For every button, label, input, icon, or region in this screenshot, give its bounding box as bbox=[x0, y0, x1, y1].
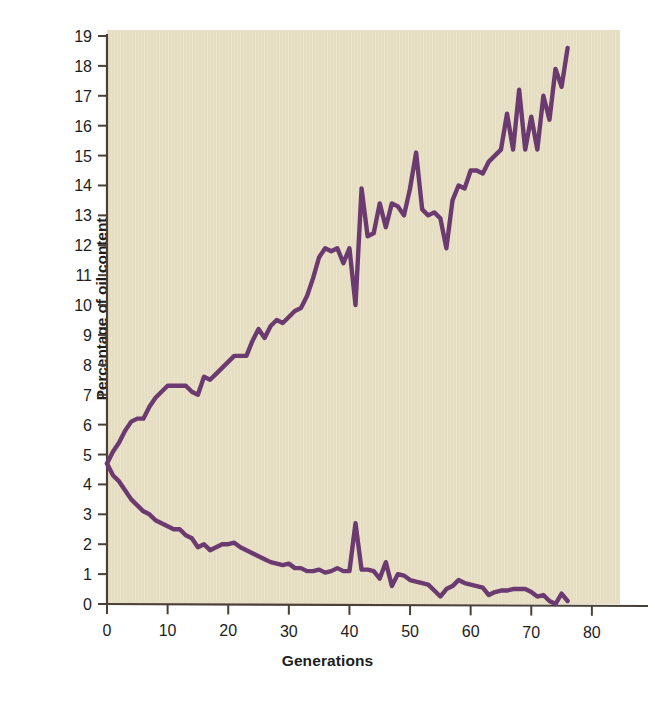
y-axis-ticks: 012345678910111213141516171819 bbox=[74, 28, 107, 613]
x-tick-label: 0 bbox=[103, 622, 112, 639]
y-tick-label: 15 bbox=[74, 148, 92, 165]
y-tick-label: 12 bbox=[74, 237, 92, 254]
y-tick-label: 3 bbox=[83, 506, 92, 523]
y-tick-label: 10 bbox=[74, 297, 92, 314]
y-tick-label: 19 bbox=[74, 28, 92, 45]
y-tick-label: 17 bbox=[74, 88, 92, 105]
x-axis-title: Generations bbox=[0, 652, 655, 670]
y-tick-label: 4 bbox=[83, 476, 92, 493]
y-tick-label: 8 bbox=[83, 357, 92, 374]
y-tick-label: 2 bbox=[83, 536, 92, 553]
x-axis-ticks: 01020304050607080 bbox=[103, 604, 601, 641]
x-tick-label: 50 bbox=[401, 623, 419, 640]
y-tick-label: 11 bbox=[75, 267, 92, 284]
y-tick-label: 7 bbox=[83, 387, 92, 404]
x-tick-label: 60 bbox=[462, 623, 480, 640]
y-tick-label: 16 bbox=[74, 118, 92, 135]
chart-figure: Percentage of oil content 01234567891011… bbox=[0, 0, 655, 706]
x-tick-label: 70 bbox=[522, 624, 540, 641]
x-tick-label: 20 bbox=[219, 622, 237, 639]
y-tick-label: 14 bbox=[74, 177, 92, 194]
y-tick-label: 9 bbox=[83, 327, 92, 344]
y-tick-label: 18 bbox=[74, 58, 92, 75]
x-tick-label: 10 bbox=[159, 622, 177, 639]
y-tick-label: 0 bbox=[83, 596, 92, 613]
line-chart-plot: 012345678910111213141516171819 010203040… bbox=[0, 0, 655, 706]
y-tick-label: 1 bbox=[83, 566, 92, 583]
x-tick-label: 40 bbox=[341, 623, 359, 640]
y-tick-label: 6 bbox=[83, 417, 92, 434]
x-tick-label: 30 bbox=[280, 623, 298, 640]
y-tick-label: 5 bbox=[83, 447, 92, 464]
x-tick-label: 80 bbox=[583, 624, 601, 641]
y-tick-label: 13 bbox=[74, 207, 92, 224]
